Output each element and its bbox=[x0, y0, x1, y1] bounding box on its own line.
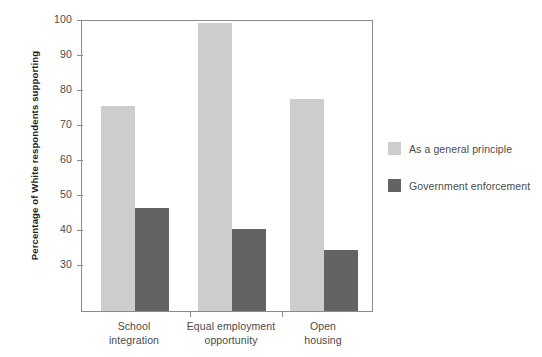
y-tick-label: 50 bbox=[42, 188, 72, 200]
x-tick-mark bbox=[282, 311, 283, 317]
bar bbox=[290, 99, 324, 311]
category-label-line: housing bbox=[258, 334, 388, 348]
category-label-line: Open bbox=[258, 320, 388, 334]
category-label: Openhousing bbox=[258, 320, 388, 347]
legend-item: As a general principle bbox=[388, 142, 530, 155]
y-tick-label: 100 bbox=[42, 13, 72, 25]
y-tick-label: 60 bbox=[42, 153, 72, 165]
legend-label: Government enforcement bbox=[409, 180, 530, 192]
x-tick-mark bbox=[190, 311, 191, 317]
y-tick-label: 90 bbox=[42, 48, 72, 60]
y-tick-label: 40 bbox=[42, 223, 72, 235]
legend-swatch-icon bbox=[388, 142, 401, 155]
bars-layer bbox=[82, 21, 372, 311]
y-tick-label: 70 bbox=[42, 118, 72, 130]
category-labels: SchoolintegrationEqual employmentopportu… bbox=[81, 320, 373, 356]
bar bbox=[232, 229, 266, 311]
y-axis-title: Percentage of White respondents supporti… bbox=[29, 26, 40, 286]
legend-swatch-icon bbox=[388, 179, 401, 192]
y-tick-label: 30 bbox=[42, 258, 72, 270]
legend-label: As a general principle bbox=[409, 143, 512, 155]
legend-item: Government enforcement bbox=[388, 179, 530, 192]
bar bbox=[101, 106, 135, 311]
y-tick-label: 80 bbox=[42, 83, 72, 95]
plot-area: 30405060708090100 bbox=[81, 20, 373, 312]
bar bbox=[198, 23, 232, 312]
bar-chart: Percentage of White respondents supporti… bbox=[0, 0, 542, 357]
bar bbox=[324, 250, 358, 311]
bar bbox=[135, 208, 169, 311]
chart-legend: As a general principleGovernment enforce… bbox=[388, 142, 530, 216]
